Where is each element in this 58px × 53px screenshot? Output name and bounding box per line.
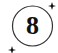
sparkle-icon — [8, 46, 16, 53]
numbered-badge: 8 — [0, 0, 58, 53]
badge-number: 8 — [12, 5, 53, 47]
